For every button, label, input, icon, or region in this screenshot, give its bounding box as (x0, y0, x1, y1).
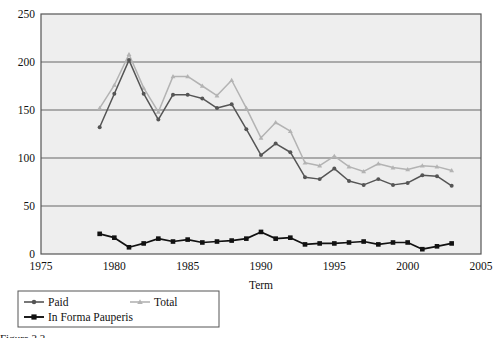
data-point-marker (318, 177, 322, 181)
data-point-marker (420, 247, 425, 252)
x-axis-tick-label: 2005 (470, 260, 493, 272)
legend-label: In Forma Pauperis (48, 311, 133, 324)
data-point-marker (171, 239, 176, 244)
data-point-marker (156, 236, 161, 241)
data-point-marker (112, 92, 116, 96)
data-point-marker (420, 173, 424, 177)
data-point-marker (230, 102, 234, 106)
data-point-marker (435, 174, 439, 178)
data-point-marker (244, 236, 249, 241)
data-point-marker (435, 244, 440, 249)
data-point-marker (273, 236, 278, 241)
data-point-marker (186, 93, 190, 97)
data-point-marker (376, 177, 380, 181)
data-point-marker (127, 58, 131, 62)
data-point-marker (171, 93, 175, 97)
x-axis-title: Term (249, 279, 273, 291)
data-point-marker (406, 181, 410, 185)
data-point-marker (347, 179, 351, 183)
data-point-marker (97, 232, 102, 237)
data-point-marker (31, 314, 36, 319)
figure-caption: Figure 2.2. (0, 332, 504, 338)
data-point-marker (317, 241, 322, 246)
x-axis-tick-label: 1995 (323, 260, 346, 272)
data-point-marker (347, 240, 352, 245)
data-point-marker (361, 239, 366, 244)
data-point-marker (215, 106, 219, 110)
data-point-marker (288, 150, 292, 154)
data-point-marker (450, 184, 454, 188)
data-point-marker (303, 242, 308, 247)
data-point-marker (259, 230, 264, 235)
data-point-marker (376, 242, 381, 247)
data-point-marker (127, 245, 132, 250)
x-axis-tick-label: 1980 (103, 260, 126, 272)
plot-background (41, 14, 481, 254)
data-point-marker (288, 235, 293, 240)
line-chart: 0501001502002501975198019851990199520002… (0, 0, 504, 338)
data-point-marker (200, 96, 204, 100)
data-point-marker (142, 92, 146, 96)
x-axis-tick-label: 1985 (176, 260, 199, 272)
x-axis-tick-label: 1975 (30, 260, 53, 272)
figure-container: 0501001502002501975198019851990199520002… (0, 0, 504, 338)
y-axis-tick-label: 0 (29, 248, 35, 260)
y-axis-tick-label: 250 (18, 8, 36, 20)
data-point-marker (141, 241, 146, 246)
data-point-marker (332, 241, 337, 246)
data-point-marker (362, 183, 366, 187)
data-point-marker (391, 240, 396, 245)
data-point-marker (112, 235, 117, 240)
y-axis-tick-label: 100 (18, 152, 36, 164)
legend-label: Paid (48, 296, 69, 308)
data-point-marker (405, 240, 410, 245)
y-axis-tick-label: 50 (24, 200, 36, 212)
x-axis-tick-label: 2000 (396, 260, 419, 272)
data-point-marker (215, 239, 220, 244)
data-point-marker (229, 238, 234, 243)
data-point-marker (303, 175, 307, 179)
data-point-marker (332, 167, 336, 171)
data-point-marker (185, 237, 190, 242)
y-axis-tick-label: 200 (18, 56, 36, 68)
data-point-marker (274, 142, 278, 146)
y-axis-tick-label: 150 (18, 104, 36, 116)
data-point-marker (200, 240, 205, 245)
data-point-marker (156, 118, 160, 122)
x-axis-tick-label: 1990 (250, 260, 273, 272)
data-point-marker (244, 127, 248, 131)
data-point-marker (259, 153, 263, 157)
legend-label: Total (154, 296, 177, 308)
data-point-marker (449, 241, 454, 246)
data-point-marker (391, 183, 395, 187)
data-point-marker (98, 125, 102, 129)
data-point-marker (32, 300, 37, 305)
